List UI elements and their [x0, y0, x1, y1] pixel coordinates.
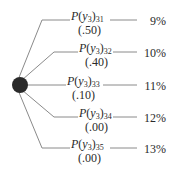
branch-label-3: P(y3)33: [67, 75, 100, 89]
branch-outcome-4: 12%: [136, 112, 166, 124]
branch-prob-5: (.00): [78, 152, 101, 164]
branch-label-2: P(y3)32: [79, 42, 112, 56]
branch-outcome-5: 13%: [136, 143, 166, 155]
branch-outcome-1: 9%: [136, 15, 166, 27]
branch-outcome-3: 11%: [136, 80, 166, 92]
branch-prob-3: (.10): [72, 89, 95, 101]
branch-label-5: P(y3)35: [71, 138, 104, 152]
branch-outcome-2: 10%: [136, 47, 166, 59]
chance-node: [12, 77, 28, 93]
branch-prob-1: (.50): [78, 24, 101, 36]
branch-prob-4: (.00): [85, 121, 108, 133]
branch-prob-2: (.40): [85, 56, 108, 68]
branch-label-4: P(y3)34: [79, 107, 112, 121]
branch-label-1: P(y3)31: [71, 10, 104, 24]
